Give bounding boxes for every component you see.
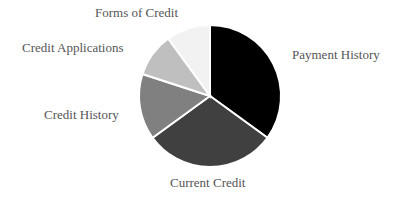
label-credit-history: Credit History [44, 107, 119, 123]
label-forms-of-credit: Forms of Credit [95, 5, 178, 21]
label-payment-history: Payment History [292, 47, 380, 63]
label-current-credit: Current Credit [170, 175, 245, 191]
pie-chart [0, 0, 409, 200]
label-credit-applications: Credit Applications [22, 40, 123, 56]
